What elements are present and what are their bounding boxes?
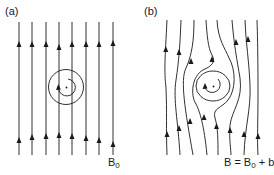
panel-b-center-dot <box>213 86 215 88</box>
panel-b-field-label: B = B0 + b <box>224 157 274 170</box>
panel-a-center-dot <box>66 87 68 89</box>
panel-a-loop-arrow <box>56 84 61 90</box>
panel-a-arrows <box>17 40 116 147</box>
panel-a-field-label: B0 <box>108 157 120 170</box>
field-diagram <box>0 0 274 175</box>
panel-b-arrows <box>163 36 260 139</box>
panel-b-island-arrow <box>203 83 208 89</box>
